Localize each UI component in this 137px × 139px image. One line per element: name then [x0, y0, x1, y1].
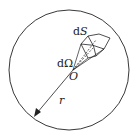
origin-label: O — [69, 71, 78, 82]
d-omega-label: dΩ — [57, 58, 73, 69]
ds-label: dS — [73, 26, 88, 37]
solid-angle-diagram: dS dΩ O r — [0, 0, 137, 139]
radius-label: r — [59, 95, 64, 106]
radius-arrow — [34, 70, 73, 117]
